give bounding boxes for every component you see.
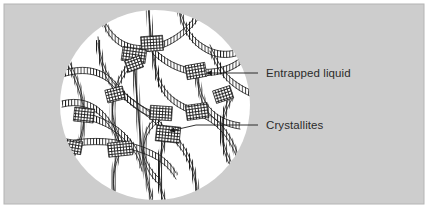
- crystallites-label: Crystallites: [266, 119, 324, 131]
- figure-root: Entrapped liquid Crystallites: [0, 0, 428, 214]
- crystallite-junction: [107, 141, 132, 157]
- crystallite-junction: [155, 125, 181, 143]
- crystallite-junction: [150, 105, 173, 121]
- entrapped-liquid-label: Entrapped liquid: [266, 67, 351, 79]
- crystallite-junction: [185, 62, 207, 79]
- crystallite-junction: [185, 103, 209, 121]
- crystallite-junction: [73, 107, 94, 123]
- crystallite-network-diagram: Entrapped liquid Crystallites: [0, 0, 428, 214]
